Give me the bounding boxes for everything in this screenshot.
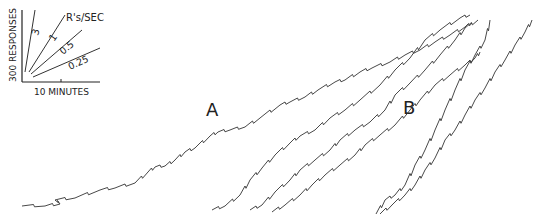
- x-axis-label: 10 MINUTES: [34, 87, 89, 97]
- record-line-A-record-4: [272, 52, 480, 212]
- record-line-B-record-1: [376, 20, 490, 214]
- cumulative-record-figure: R's/SEC 3 1 0.5 0.25 300 RESPONSES 10 MI…: [0, 0, 539, 220]
- records: [22, 15, 532, 214]
- panel-label-a: A: [206, 99, 219, 120]
- rate-0.5-label: 0.5: [57, 38, 76, 56]
- rate-legend: R's/SEC 3 1 0.5 0.25 300 RESPONSES 10 MI…: [8, 8, 104, 97]
- panel-label-b: B: [403, 97, 415, 118]
- rate-3-label: 3: [29, 28, 41, 37]
- legend-title: R's/SEC: [66, 12, 104, 23]
- record-line-A-record-3: [250, 20, 478, 210]
- y-axis-label: 300 RESPONSES: [8, 8, 18, 82]
- rate-0.25-label: 0.25: [66, 53, 90, 72]
